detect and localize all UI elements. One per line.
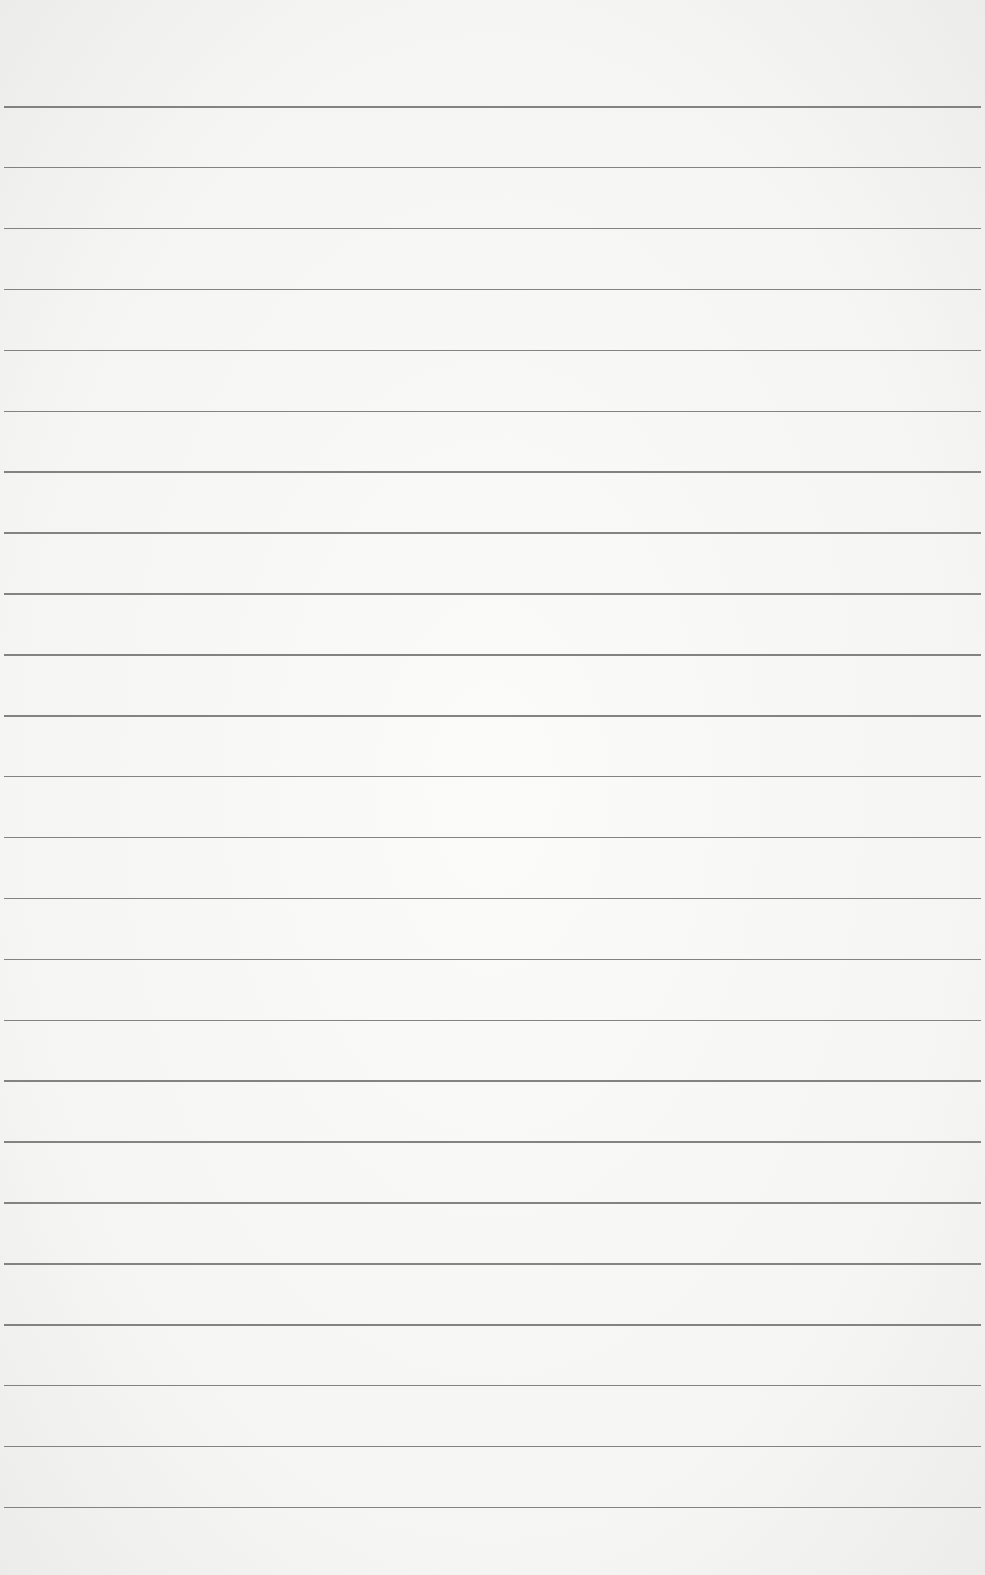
ruled-line xyxy=(4,350,981,352)
lined-paper-sheet xyxy=(0,0,985,1575)
ruled-line xyxy=(4,898,981,900)
ruled-line xyxy=(4,532,981,534)
ruled-line xyxy=(4,1080,981,1082)
ruled-line xyxy=(4,1202,981,1204)
ruled-line xyxy=(4,715,981,717)
ruled-line xyxy=(4,959,981,961)
ruled-line xyxy=(4,593,981,595)
ruled-line xyxy=(4,1324,981,1326)
ruled-line xyxy=(4,228,981,230)
ruled-line xyxy=(4,776,981,778)
ruled-line xyxy=(4,1507,981,1509)
ruled-line xyxy=(4,1385,981,1387)
ruled-line xyxy=(4,1141,981,1143)
ruled-line xyxy=(4,167,981,169)
ruled-line xyxy=(4,654,981,656)
ruled-line xyxy=(4,1263,981,1265)
ruled-line xyxy=(4,106,981,108)
ruled-line xyxy=(4,1446,981,1448)
ruled-line xyxy=(4,411,981,413)
ruled-line xyxy=(4,289,981,291)
ruled-line xyxy=(4,837,981,839)
ruled-line xyxy=(4,1020,981,1022)
ruled-line xyxy=(4,471,981,473)
